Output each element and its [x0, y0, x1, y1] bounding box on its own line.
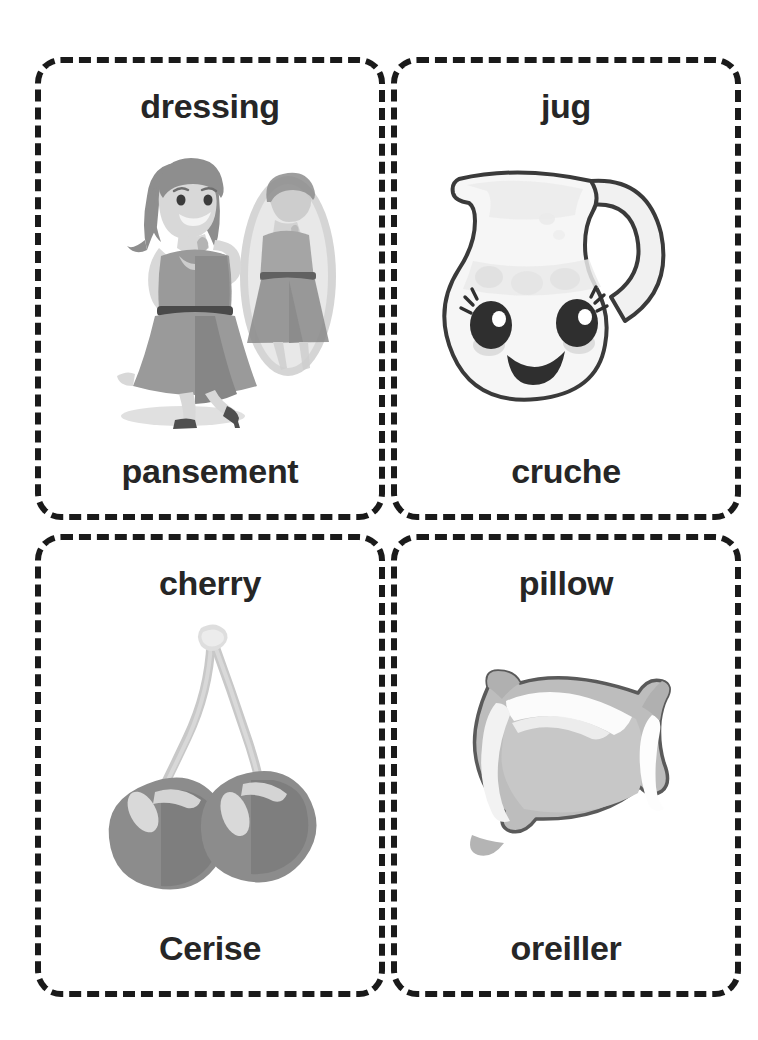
illustration-cherry — [51, 600, 369, 931]
flashcard-sheet: dressing — [0, 0, 758, 1040]
illustration-dressing — [51, 123, 369, 454]
flashcard-dressing[interactable]: dressing — [35, 57, 385, 520]
card-french-label: pansement — [122, 454, 299, 488]
card-english-label: pillow — [519, 566, 614, 600]
cherries-icon — [85, 616, 335, 916]
illustration-pillow — [407, 600, 725, 931]
flashcard-pillow[interactable]: pillow o — [391, 534, 741, 997]
flashcard-jug[interactable]: jug — [391, 57, 741, 520]
card-french-label: Cerise — [159, 931, 261, 965]
kawaii-jug-icon — [431, 149, 701, 429]
pillow-icon — [426, 661, 706, 871]
card-english-label: jug — [541, 89, 591, 123]
card-english-label: dressing — [140, 89, 279, 123]
card-english-label: cherry — [159, 566, 261, 600]
illustration-jug — [407, 123, 725, 454]
card-french-label: oreiller — [511, 931, 622, 965]
card-french-label: cruche — [511, 454, 621, 488]
flashcard-cherry[interactable]: cherry — [35, 534, 385, 997]
flashcard-grid: dressing — [35, 57, 741, 997]
woman-mirror-icon — [75, 144, 345, 434]
